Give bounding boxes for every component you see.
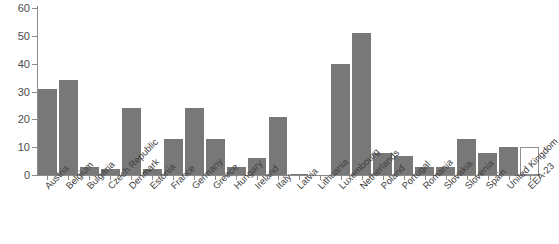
bar [38,89,57,175]
y-tick-label: 60 [0,3,30,14]
y-tick-label: 40 [0,59,30,70]
bars-layer [37,0,540,176]
y-tick-label: 20 [0,114,30,125]
y-tick-label: 50 [0,31,30,42]
y-tick-label: 10 [0,142,30,153]
y-tick-label: 30 [0,87,30,98]
bar [59,80,78,175]
y-tick-label: 0 [0,170,30,181]
